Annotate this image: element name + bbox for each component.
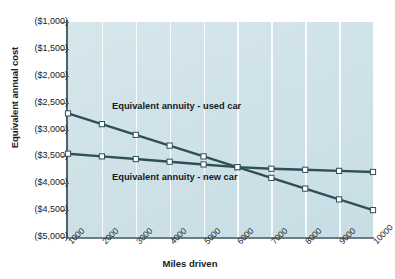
y-axis-tick-mark xyxy=(61,156,69,157)
y-axis-tick-mark xyxy=(61,76,69,77)
gridline-vertical xyxy=(102,22,104,237)
gridline-vertical xyxy=(237,22,239,237)
gridline-vertical xyxy=(271,22,273,237)
gridline-vertical xyxy=(339,22,341,237)
y-axis-tick-mark xyxy=(61,49,69,50)
series-label: Equivalent annuity - new car xyxy=(112,172,238,182)
y-axis-tick-mark xyxy=(61,22,69,23)
gridline-vertical xyxy=(305,22,307,237)
gridline-vertical xyxy=(170,22,172,237)
y-axis-tick-mark xyxy=(61,210,69,211)
y-axis-tick-label: ($4,500) xyxy=(8,204,68,214)
y-axis-tick-label: ($3,500) xyxy=(8,150,68,160)
y-axis-tick-label: ($5,000) xyxy=(8,231,68,241)
y-axis-tick-label: ($3,000) xyxy=(8,124,68,134)
y-axis-tick-label: ($2,000) xyxy=(8,70,68,80)
y-axis-tick-mark xyxy=(61,130,69,131)
y-axis-tick-label: ($4,000) xyxy=(8,177,68,187)
series-label: Equivalent annuity - used car xyxy=(112,101,241,111)
gridline-vertical xyxy=(204,22,206,237)
plot-area xyxy=(68,22,373,237)
y-axis-tick-label: ($1,000) xyxy=(8,16,68,26)
y-axis-tick-label: ($2,500) xyxy=(8,97,68,107)
x-axis-tick-label: 10000 xyxy=(371,222,395,246)
x-axis-title: Miles driven xyxy=(0,258,380,269)
gridline-vertical xyxy=(136,22,138,237)
y-axis-tick-mark xyxy=(61,103,69,104)
y-axis-tick-mark xyxy=(61,183,69,184)
y-axis-tick-label: ($1,500) xyxy=(8,43,68,53)
gridline-vertical xyxy=(373,22,375,237)
